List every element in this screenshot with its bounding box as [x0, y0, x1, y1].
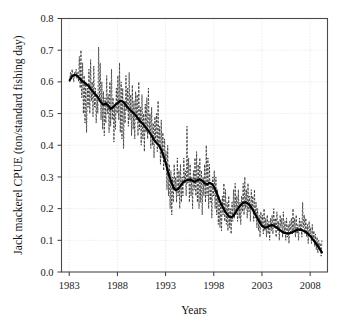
y-tick-label: 0.1: [40, 235, 53, 246]
cpue-time-series-chart: 0.00.10.20.30.40.50.60.70.8 198319881993…: [0, 0, 342, 332]
x-tick-label: 1993: [155, 280, 176, 291]
x-tick-label: 1983: [59, 280, 80, 291]
y-tick-label: 0.6: [40, 76, 53, 87]
x-tick-label: 1998: [203, 280, 224, 291]
y-tick-label: 0.3: [40, 172, 53, 183]
y-tick-label: 0.2: [40, 203, 53, 214]
y-tick-label: 0.0: [40, 267, 53, 278]
x-tick-label: 1988: [107, 280, 128, 291]
x-tick-label: 2008: [300, 280, 321, 291]
chart-canvas: 0.00.10.20.30.40.50.60.70.8 198319881993…: [0, 0, 342, 332]
x-axis-title: Years: [181, 304, 207, 316]
y-tick-label: 0.8: [40, 13, 53, 24]
y-tick-label: 0.4: [40, 140, 54, 151]
x-tick-label: 2003: [251, 280, 272, 291]
y-tick-labels: 0.00.10.20.30.40.50.60.70.8: [40, 13, 54, 278]
y-tick-label: 0.7: [40, 45, 53, 56]
y-axis-title: Jack mackerel CPUE (ton/standard fishing…: [12, 35, 25, 255]
y-tick-label: 0.5: [40, 108, 53, 119]
